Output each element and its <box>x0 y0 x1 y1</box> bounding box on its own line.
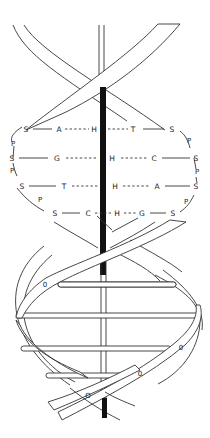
ribbon-marker: 0 <box>43 281 47 289</box>
hydrogen-bond-label: H <box>91 125 97 134</box>
base-label: T <box>130 125 136 134</box>
strand-converge-left <box>54 222 98 248</box>
central-axis-bar <box>100 87 106 275</box>
phosphate-label: P <box>11 140 15 148</box>
sugar-label: S <box>24 125 29 134</box>
lower-helix: 0 0 0 O <box>16 220 203 420</box>
sugar-label: S <box>194 154 199 163</box>
base-pair-row-1: S A H T S <box>24 125 175 134</box>
phosphate-label: P <box>38 196 42 204</box>
sugar-label: S <box>53 209 58 218</box>
sugar-label: S <box>171 209 176 218</box>
hydrogen-bond-label: H <box>114 209 120 218</box>
back-strand-edge <box>115 252 160 281</box>
strand-converge-inner <box>112 218 138 232</box>
base-label: T <box>61 182 67 191</box>
base-pair-rung <box>58 282 176 287</box>
ribbon-marker: 0 <box>179 344 183 352</box>
sugar-label: S <box>10 154 15 163</box>
base-label: G <box>54 154 60 163</box>
front-strand-ribbon-lower <box>58 305 201 420</box>
hydrogen-bond-label: H <box>109 154 115 163</box>
central-axis-bar-lower <box>102 398 107 418</box>
dna-double-helix-diagram: S A H T S S G H C S S T H <box>0 0 210 438</box>
ribbon-marker: O <box>85 392 91 400</box>
hydrogen-bond-label: H <box>112 182 118 191</box>
base-label: A <box>154 182 160 191</box>
phosphate-label: P <box>10 167 14 175</box>
base-pair-row-4: S C H G S <box>53 209 176 218</box>
base-pair-row-3: S T H A S <box>20 182 199 191</box>
back-strand-tail <box>105 392 135 406</box>
ribbon-marker: 0 <box>138 370 142 378</box>
base-pair-rung <box>21 346 171 351</box>
phosphate-label: P <box>187 137 191 145</box>
backbone-right-labels: P P P <box>184 137 199 206</box>
sugar-label: S <box>20 182 25 191</box>
sugar-label: S <box>194 182 199 191</box>
phosphate-label: P <box>195 168 199 176</box>
sugar-label: S <box>170 125 175 134</box>
base-label: C <box>151 154 156 163</box>
backbone-left-labels: P P P <box>10 140 42 204</box>
base-label: G <box>139 209 145 218</box>
base-pair-rung <box>16 313 199 318</box>
base-label: A <box>56 125 62 134</box>
base-label: C <box>85 209 90 218</box>
phosphate-label: P <box>184 198 188 206</box>
